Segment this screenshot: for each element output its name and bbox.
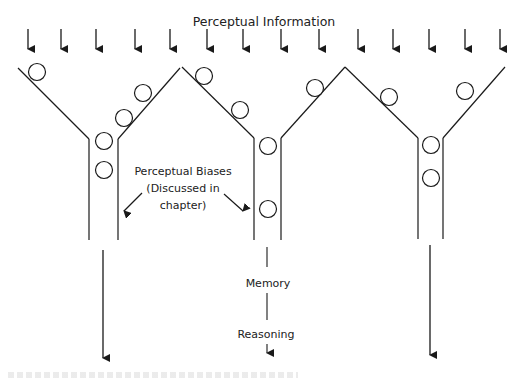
information-particle <box>423 137 440 154</box>
bias-label-line-3: chapter) <box>160 199 207 212</box>
funnel-right-wall <box>281 67 345 138</box>
reasoning-label: Reasoning <box>237 328 294 341</box>
cropped-caption <box>8 372 298 378</box>
information-particle <box>260 138 277 155</box>
perception-funnel-diagram: Perceptual Information Perceptual Biases… <box>0 0 523 379</box>
information-particle <box>260 201 277 218</box>
funnel-1 <box>18 64 180 241</box>
information-particle <box>423 170 440 187</box>
information-particle <box>381 89 398 106</box>
funnel-right-wall <box>443 67 505 138</box>
funnel-left-wall <box>345 67 418 138</box>
funnel-2 <box>182 67 345 240</box>
information-particle <box>232 102 249 119</box>
information-particle <box>196 68 213 85</box>
information-particle <box>29 64 46 81</box>
information-particle <box>96 162 113 179</box>
funnel-3 <box>345 67 505 239</box>
information-particle <box>96 133 113 150</box>
funnel-left-wall <box>18 68 89 139</box>
information-particle <box>307 80 324 97</box>
funnels <box>18 64 505 241</box>
funnel-right-wall <box>118 68 180 139</box>
information-particle <box>457 83 474 100</box>
diagram-title: Perceptual Information <box>193 14 335 29</box>
bias-label-line-1: Perceptual Biases <box>134 165 232 178</box>
information-particle <box>135 85 152 102</box>
bias-arrow-right <box>224 194 243 211</box>
bias-arrow-left <box>124 193 142 211</box>
memory-label: Memory <box>246 277 291 290</box>
information-particle <box>116 110 133 127</box>
bias-label-line-2: (Discussed in <box>146 182 219 195</box>
input-arrows <box>28 29 500 49</box>
